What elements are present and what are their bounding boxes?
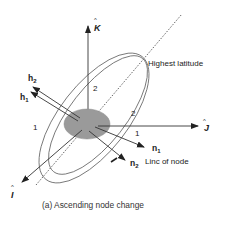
- orbit-2-label-top: 2: [93, 84, 98, 93]
- ascending-node-diagram: ^ K ^ J ^ I h2 h1 n1 n2 Highest latitude…: [0, 0, 229, 229]
- orbit-2-label-right: 2: [131, 109, 136, 118]
- i-axis-label: I: [11, 190, 14, 200]
- line-of-node-label: Linc of node: [145, 157, 189, 166]
- highest-latitude-label: Highest latitude: [148, 59, 204, 68]
- figure-caption: (a) Ascending node change: [42, 200, 144, 210]
- earth-ellipse: [64, 109, 110, 139]
- k-axis-label: K: [94, 23, 102, 33]
- i-axis: [22, 130, 82, 182]
- n2-label: n2: [130, 158, 139, 169]
- j-axis-label: J: [204, 123, 210, 133]
- orbit-1-label-right: 1: [135, 129, 140, 138]
- h1-vector: [31, 92, 78, 121]
- node-change-arc: [111, 158, 117, 162]
- orbit-1-label-left: 1: [33, 123, 38, 132]
- n2-vector: [89, 131, 125, 160]
- h1-label: h1: [20, 92, 29, 103]
- h2-vector: [33, 87, 80, 118]
- h2-label: h2: [28, 73, 37, 84]
- n1-label: n1: [152, 143, 161, 154]
